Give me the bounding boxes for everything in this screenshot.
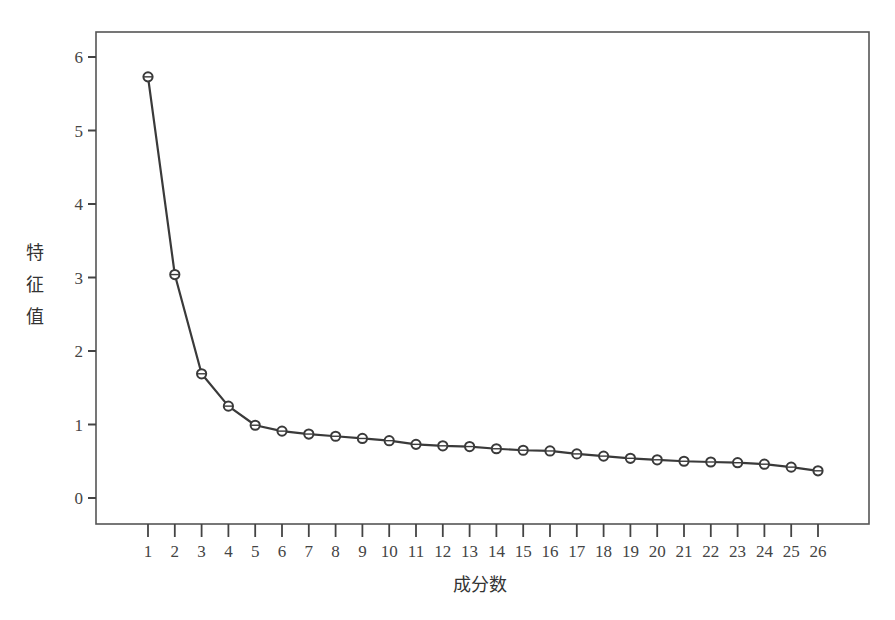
y-axis-title-char: 特 [26, 238, 44, 264]
x-tick-label: 13 [461, 542, 478, 561]
x-tick-label: 23 [729, 542, 746, 561]
x-tick-label: 26 [810, 542, 827, 561]
x-tick-label: 11 [408, 542, 424, 561]
y-axis-ticks: 0123456 [75, 48, 97, 508]
eigenvalue-series [143, 72, 822, 475]
x-tick-label: 6 [278, 542, 287, 561]
x-tick-label: 15 [515, 542, 532, 561]
x-tick-label: 19 [622, 542, 639, 561]
y-axis-title-char: 征 [26, 270, 44, 296]
x-tick-label: 7 [305, 542, 314, 561]
x-tick-label: 21 [676, 542, 693, 561]
y-tick-label: 6 [75, 48, 84, 67]
x-tick-label: 8 [331, 542, 340, 561]
x-tick-label: 20 [649, 542, 666, 561]
eigenvalue-line [148, 77, 818, 471]
x-tick-label: 24 [756, 542, 774, 561]
x-tick-label: 1 [144, 542, 153, 561]
x-axis-title: 成分数 [453, 574, 507, 595]
y-tick-label: 4 [75, 195, 84, 214]
x-axis-ticks: 1234567891011121314151617181920212223242… [144, 524, 827, 561]
y-tick-label: 3 [75, 269, 84, 288]
y-tick-label: 5 [75, 122, 84, 141]
plot-frame [96, 32, 869, 524]
x-tick-label: 5 [251, 542, 260, 561]
x-tick-label: 9 [358, 542, 367, 561]
x-tick-label: 2 [171, 542, 180, 561]
plot-area-border [96, 32, 869, 524]
x-tick-label: 18 [595, 542, 612, 561]
x-tick-label: 22 [702, 542, 719, 561]
y-tick-label: 0 [75, 489, 84, 508]
y-axis-title-char: 值 [26, 302, 44, 328]
y-tick-label: 2 [75, 342, 84, 361]
x-tick-label: 10 [381, 542, 398, 561]
x-tick-label: 3 [197, 542, 206, 561]
x-tick-label: 4 [224, 542, 233, 561]
x-tick-label: 25 [783, 542, 800, 561]
x-tick-label: 16 [542, 542, 559, 561]
x-tick-label: 14 [488, 542, 506, 561]
scree-plot: 0123456 12345678910111213141516171819202… [0, 0, 895, 620]
x-tick-label: 12 [434, 542, 451, 561]
x-tick-label: 17 [568, 542, 586, 561]
y-tick-label: 1 [75, 416, 84, 435]
